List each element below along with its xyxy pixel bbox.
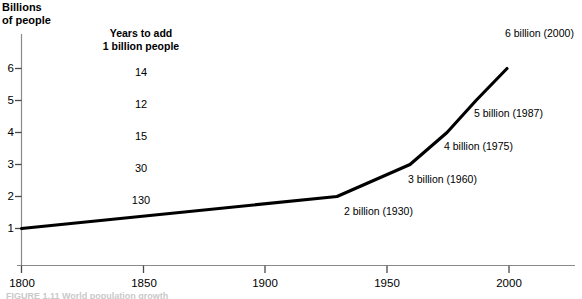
y-tick-label-3: 3 [0,158,14,170]
population-curve [22,69,508,229]
point-label-6-billion: 6 billion (2000) [505,27,574,39]
y-tick-label-2: 2 [0,190,14,202]
x-tick-label-1800: 1800 [0,277,44,289]
point-label-5-billion: 5 billion (1987) [474,107,543,119]
x-tick-label-1850: 1850 [122,277,166,289]
point-label-4-billion: 4 billion (1975) [444,140,513,152]
point-label-3-billion: 3 billion (1960) [408,173,477,185]
x-tick-label-1950: 1950 [365,277,409,289]
y-tick-label-5: 5 [0,94,14,106]
point-label-2-billion: 2 billion (1930) [344,205,413,217]
figure-caption-cropped: FIGURE 1.11 World population growth [6,291,296,299]
x-tick-label-1900: 1900 [243,277,287,289]
population-growth-chart: Billions of people Years to add 1 billio… [0,0,582,299]
y-tick-label-6: 6 [0,62,14,74]
y-tick-label-4: 4 [0,126,14,138]
x-tick-label-2000: 2000 [487,277,531,289]
y-tick-label-1: 1 [0,222,14,234]
